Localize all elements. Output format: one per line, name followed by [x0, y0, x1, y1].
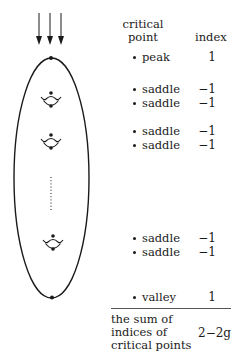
row-label-saddle: saddle — [133, 125, 180, 138]
saddle-point-icon — [49, 91, 53, 95]
arrowhead-icon — [36, 36, 42, 45]
saddle-point-icon — [49, 104, 53, 108]
label: saddle — [142, 245, 180, 259]
label: saddle — [142, 82, 180, 96]
label: saddle — [142, 138, 180, 152]
row-index: −1 — [176, 139, 216, 152]
row-index: −1 — [176, 232, 216, 245]
hole-icon — [41, 133, 61, 150]
hole-icon — [43, 234, 63, 251]
row-index: −1 — [176, 246, 216, 259]
row-index: 1 — [176, 51, 216, 64]
row-label-saddle: saddle — [133, 97, 180, 110]
bullet-icon — [133, 237, 136, 240]
row-index: 1 — [176, 291, 216, 304]
saddle-point-icon — [51, 234, 55, 238]
saddle-point-icon — [49, 146, 53, 150]
hole-icon — [41, 91, 61, 108]
bullet-icon — [133, 251, 136, 254]
arrowhead-icon — [58, 36, 64, 45]
row-label-valley: valley — [133, 291, 176, 304]
bullet-icon — [133, 88, 136, 91]
saddle-point-icon — [51, 247, 55, 251]
label: saddle — [142, 231, 180, 245]
label: valley — [142, 290, 176, 304]
peak-point-icon — [49, 56, 53, 60]
index-header: index — [195, 31, 227, 44]
header-line: point — [122, 31, 164, 44]
sum-value: 2−2g — [198, 327, 231, 340]
label: peak — [142, 50, 170, 64]
row-index: −1 — [176, 83, 216, 96]
label: saddle — [142, 124, 180, 138]
row-label-saddle: saddle — [133, 139, 180, 152]
row-label-saddle: saddle — [133, 232, 180, 245]
row-index: −1 — [176, 97, 216, 110]
label: saddle — [142, 96, 180, 110]
sum-label-line: critical points — [111, 339, 191, 352]
arrowhead-icon — [47, 36, 53, 45]
bullet-icon — [133, 56, 136, 59]
flow-arrows — [36, 13, 64, 45]
bullet-icon — [133, 296, 136, 299]
sum-divider — [111, 308, 231, 309]
bullet-icon — [133, 144, 136, 147]
row-label-saddle: saddle — [133, 246, 180, 259]
bullet-icon — [133, 102, 136, 105]
row-label-peak: peak — [133, 51, 170, 64]
critical-point-header: critical point — [122, 18, 164, 44]
bullet-icon — [133, 130, 136, 133]
row-label-saddle: saddle — [133, 83, 180, 96]
row-index: −1 — [176, 125, 216, 138]
sum-label: the sum of indices of critical points — [111, 313, 191, 352]
valley-point-icon — [50, 296, 54, 300]
saddle-point-icon — [49, 133, 53, 137]
